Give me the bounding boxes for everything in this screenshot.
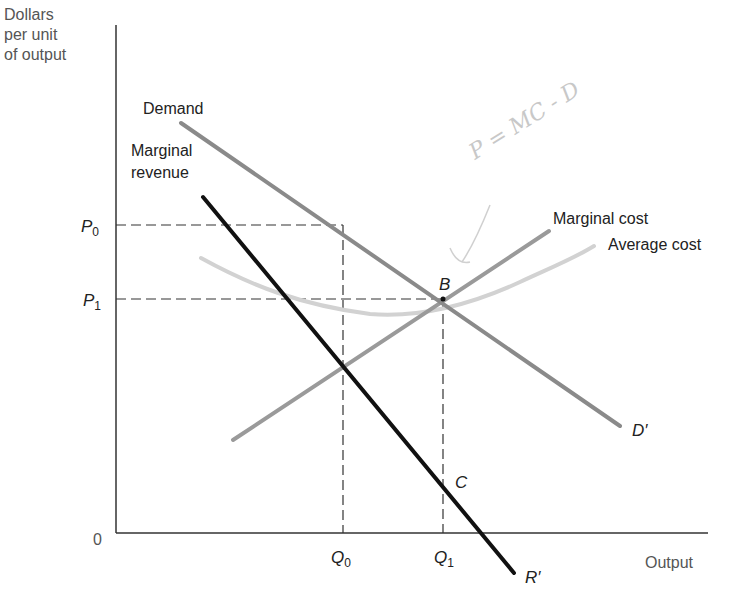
pencil-arrow-icon xyxy=(450,205,490,262)
y-axis-title-line3: of output xyxy=(4,46,67,63)
x-axis-title: Output xyxy=(645,554,694,571)
marginal-cost-label: Marginal cost xyxy=(553,210,649,227)
marginal-revenue-label-line2: revenue xyxy=(131,164,189,181)
point-b-marker xyxy=(441,297,446,302)
p1-label: P1 xyxy=(83,291,101,313)
origin-label: 0 xyxy=(93,531,102,548)
marginal-revenue-label-line1: Marginal xyxy=(131,142,192,159)
average-cost-label: Average cost xyxy=(608,236,702,253)
y-axis-title-line2: per unit xyxy=(4,26,58,43)
svg-text:P = MC - D: P = MC - D xyxy=(464,76,585,165)
q1-label: Q1 xyxy=(434,548,454,570)
q0-label: Q0 xyxy=(331,548,351,570)
demand-label: Demand xyxy=(143,100,203,117)
marginal-cost-curve xyxy=(233,231,549,440)
p0-label: P0 xyxy=(81,217,99,239)
point-c-label: C xyxy=(455,473,468,492)
demand-end-label: D′ xyxy=(632,421,648,440)
handwritten-annotation: P = MC - D xyxy=(450,76,585,262)
marginal-revenue-end-label: R′ xyxy=(525,568,541,587)
average-cost-curve xyxy=(201,246,594,315)
y-axis-title-line1: Dollars xyxy=(4,6,54,23)
monopoly-pricing-chart: P = MC - D Dollars per unit of output Ou… xyxy=(0,0,735,599)
point-b-label: B xyxy=(439,275,450,294)
demand-curve xyxy=(181,123,620,426)
